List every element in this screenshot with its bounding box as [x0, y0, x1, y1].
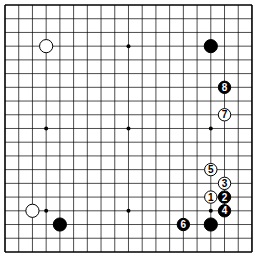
- move-number: 2: [222, 192, 228, 203]
- star-point: [126, 209, 130, 213]
- move-number: 8: [222, 82, 228, 93]
- move-number: 7: [222, 109, 228, 120]
- white-stone: [40, 40, 53, 53]
- black-stone: [204, 40, 217, 53]
- black-stone: [204, 218, 217, 231]
- star-point: [126, 44, 130, 48]
- move-number: 5: [208, 164, 214, 175]
- star-point: [44, 209, 48, 213]
- black-stone: [53, 218, 66, 231]
- move-number: 3: [222, 178, 228, 189]
- star-point: [209, 126, 213, 130]
- move-number: 4: [222, 205, 228, 216]
- star-point: [126, 126, 130, 130]
- move-number: 1: [208, 192, 214, 203]
- star-point: [44, 126, 48, 130]
- white-stone: [26, 204, 39, 217]
- star-point: [209, 209, 213, 213]
- move-number: 6: [181, 219, 187, 230]
- go-board: 87531246: [0, 0, 255, 264]
